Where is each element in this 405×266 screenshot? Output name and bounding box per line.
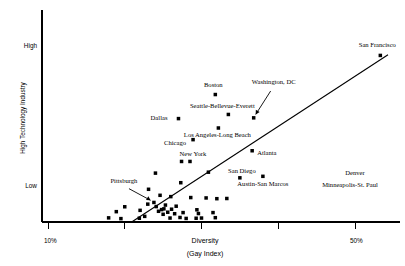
- point-label: Dallas: [151, 114, 168, 121]
- label-leader-line: [256, 91, 271, 114]
- y-axis-high-label: High: [24, 42, 38, 50]
- data-point-labeled: [379, 54, 383, 58]
- data-point-labeled: [217, 126, 221, 130]
- x-axis-left-tick-label: 10%: [44, 237, 57, 244]
- data-point-labeled: [214, 93, 218, 97]
- data-point-labeled: [188, 160, 192, 164]
- x-axis-ticks: [48, 222, 355, 229]
- point-label: San Diego: [228, 167, 256, 174]
- axes-group: [42, 10, 400, 222]
- data-point: [170, 207, 174, 211]
- data-point: [119, 217, 123, 221]
- data-point: [180, 160, 184, 164]
- data-point: [123, 205, 127, 209]
- data-point: [158, 194, 162, 198]
- data-point: [194, 216, 198, 220]
- data-point: [195, 208, 199, 212]
- data-point: [207, 170, 211, 174]
- data-point: [179, 181, 183, 185]
- data-point: [200, 216, 204, 220]
- data-point: [214, 216, 218, 220]
- data-point: [166, 210, 170, 214]
- point-label: New York: [180, 150, 207, 157]
- data-point: [197, 212, 201, 216]
- data-point: [115, 210, 119, 214]
- data-point: [173, 212, 177, 216]
- data-point: [211, 211, 215, 215]
- y-axis-title: High Technology Industry: [19, 81, 27, 153]
- x-axis-subtitle: (Gay Index): [187, 250, 224, 258]
- point-label: San Francisco: [359, 41, 397, 48]
- data-point-labeled: [252, 116, 256, 120]
- data-point-labeled: [238, 176, 242, 180]
- scatter-chart: San FranciscoBostonWashington, DCSeattle…: [0, 0, 405, 266]
- data-point-labeled: [261, 175, 265, 179]
- chart-canvas: San FranciscoBostonWashington, DCSeattle…: [0, 0, 405, 266]
- point-label: Denver: [345, 169, 365, 176]
- point-label: Los Angeles-Long Beach: [184, 131, 252, 138]
- data-point: [147, 188, 151, 192]
- data-point: [138, 209, 142, 213]
- x-axis-right-tick-label: 50%: [350, 237, 363, 244]
- data-point: [157, 210, 161, 214]
- point-label: Pittsburgh: [110, 177, 138, 184]
- data-point-labeled: [250, 149, 254, 153]
- y-axis-low-label: Low: [25, 182, 37, 189]
- data-point: [138, 216, 142, 220]
- point-label: Boston: [204, 81, 223, 88]
- point-label: Minneapolis-St. Paul: [322, 181, 378, 188]
- point-labels-group: San FranciscoBostonWashington, DCSeattle…: [110, 41, 396, 188]
- point-label: Washington, DC: [252, 78, 296, 85]
- data-point-labeled: [191, 138, 195, 142]
- data-point-labeled: [152, 201, 156, 205]
- data-point: [184, 217, 188, 221]
- point-label: Atlanta: [257, 149, 276, 156]
- data-point: [164, 203, 168, 207]
- data-point: [215, 197, 219, 201]
- data-point: [146, 202, 150, 206]
- point-label: Chicago: [164, 139, 187, 146]
- data-point: [154, 171, 158, 175]
- data-point-labeled: [227, 113, 231, 117]
- data-point: [143, 215, 147, 219]
- point-label: Seattle-Bellevue-Everett: [190, 102, 255, 109]
- data-point: [181, 211, 185, 215]
- data-point: [169, 195, 173, 199]
- data-point: [162, 207, 166, 211]
- data-point: [154, 205, 158, 209]
- point-label: Austin-San Marcos: [237, 180, 289, 187]
- data-point: [168, 216, 172, 220]
- data-point-labeled: [177, 117, 181, 121]
- data-point: [174, 204, 178, 208]
- x-axis-title: Diversity: [192, 237, 219, 245]
- data-point: [107, 216, 111, 220]
- data-point: [161, 213, 165, 217]
- data-point: [204, 196, 208, 200]
- data-point: [178, 216, 182, 220]
- data-point: [225, 197, 229, 201]
- data-point: [189, 196, 193, 200]
